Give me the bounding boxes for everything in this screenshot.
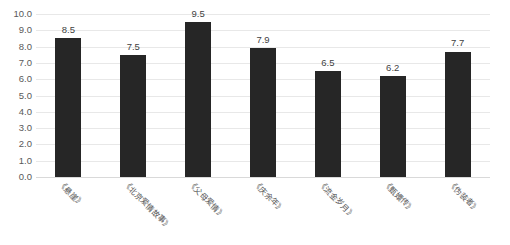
x-axis-category-label: 《庆余年》	[251, 180, 285, 214]
y-axis-tick-label: 10.0	[0, 9, 32, 19]
bar[interactable]	[445, 52, 471, 178]
bar-value-label: 7.5	[127, 42, 140, 52]
x-axis-category-label: 《流金岁月》	[316, 180, 356, 220]
x-axis: 《悬崖》《北京爱情故事》《父母爱情》《庆余年》《流金岁月》《甄嬛传》《伪装者》	[36, 180, 490, 244]
plot-area: 8.57.59.57.96.56.27.7	[36, 14, 490, 177]
y-axis: 10.09.08.07.06.05.04.03.02.01.00.0	[0, 14, 32, 177]
bar[interactable]	[185, 22, 211, 177]
gridline	[36, 177, 490, 178]
y-axis-tick-label: 8.0	[0, 42, 32, 52]
y-axis-tick-label: 9.0	[0, 26, 32, 36]
x-axis-category-label: 《伪装者》	[446, 180, 480, 214]
y-axis-tick-label: 6.0	[0, 74, 32, 84]
bar-group[interactable]: 9.5	[166, 14, 231, 177]
bar-group[interactable]: 6.5	[295, 14, 360, 177]
bar-value-label: 8.5	[62, 25, 75, 35]
bar[interactable]	[315, 71, 341, 177]
bar-chart: 10.09.08.07.06.05.04.03.02.01.00.0 8.57.…	[0, 0, 510, 245]
x-axis-category-label: 《悬崖》	[57, 180, 85, 208]
y-axis-tick-label: 1.0	[0, 156, 32, 166]
y-axis-tick-label: 2.0	[0, 140, 32, 150]
bar-group[interactable]: 7.9	[231, 14, 296, 177]
bar-group[interactable]: 7.5	[101, 14, 166, 177]
bar-group[interactable]: 8.5	[36, 14, 101, 177]
x-axis-category-label: 《甄嬛传》	[381, 180, 415, 214]
x-axis-category-label: 《北京爱情故事》	[122, 180, 173, 231]
y-axis-tick-label: 0.0	[0, 172, 32, 182]
x-axis-category-label: 《父母爱情》	[186, 180, 226, 220]
bar-value-label: 9.5	[192, 9, 205, 19]
bar-value-label: 6.2	[386, 63, 399, 73]
bar[interactable]	[380, 76, 406, 177]
y-axis-tick-label: 7.0	[0, 58, 32, 68]
bar[interactable]	[120, 55, 146, 177]
bar-value-label: 6.5	[321, 58, 334, 68]
bar-group[interactable]: 6.2	[360, 14, 425, 177]
y-axis-tick-label: 5.0	[0, 91, 32, 101]
bar[interactable]	[250, 48, 276, 177]
bar-value-label: 7.7	[451, 38, 464, 48]
y-axis-tick-label: 4.0	[0, 107, 32, 117]
bar-value-label: 7.9	[256, 35, 269, 45]
bar-group[interactable]: 7.7	[425, 14, 490, 177]
y-axis-tick-label: 3.0	[0, 123, 32, 133]
bar[interactable]	[55, 38, 81, 177]
